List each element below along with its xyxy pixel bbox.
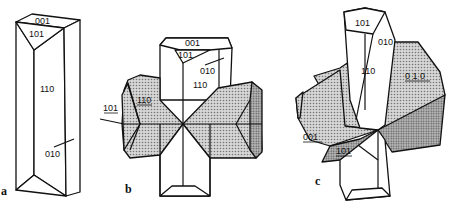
label-b-101-left: 101 — [103, 103, 118, 113]
label-a-101: 101 — [29, 29, 44, 39]
panel-label-a: a — [1, 184, 7, 198]
label-b-101: 101 — [178, 50, 193, 60]
label-c-001: 001 — [303, 132, 318, 142]
label-b-110-top: 110 — [193, 80, 207, 90]
label-b-001: 001 — [185, 38, 200, 48]
label-a-110: 110 — [40, 84, 54, 94]
panel-label-c: c — [315, 174, 321, 188]
face-110-front — [34, 28, 66, 196]
label-b-010: 010 — [200, 66, 215, 76]
panel-a-crystal: 001 101 110 010 a — [1, 14, 80, 198]
label-a-010: 010 — [45, 149, 60, 159]
face-010 — [64, 20, 80, 196]
label-c-101-top: 101 — [355, 18, 370, 28]
crystal-twinning-figure: 001 101 110 010 a 001 101 — [0, 0, 456, 212]
face-110 — [16, 22, 34, 190]
label-c-010-edge: 010 — [378, 37, 393, 47]
label-b-110-left: 110 — [137, 95, 151, 105]
panel-c-crystal: 101 010 110 0 1 0 001 101 c — [296, 8, 445, 200]
label-c-010-shaded: 0 1 0 — [405, 71, 425, 81]
panel-b-crystal: 001 101 010 110 110 101 b — [100, 38, 262, 196]
label-a-001: 001 — [35, 16, 50, 26]
label-c-110: 110 — [361, 66, 375, 76]
label-c-101-shaded: 101 — [336, 146, 351, 156]
panel-label-b: b — [125, 182, 132, 196]
